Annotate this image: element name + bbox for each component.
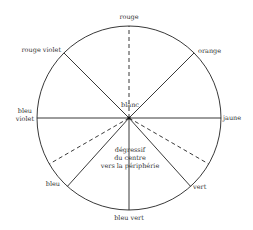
label-blanc: blanc xyxy=(121,101,139,109)
label-jaune: jaune xyxy=(222,114,241,122)
note-line-2: du centre xyxy=(114,154,146,162)
label-rouge-violet: rouge violet xyxy=(22,46,62,54)
center-point xyxy=(127,116,130,119)
label-bleu-violet-line2: violet xyxy=(15,115,35,123)
label-bleu-violet-line1: bleu xyxy=(18,107,32,115)
label-rouge: rouge xyxy=(119,13,138,21)
note-line-1: dégressif xyxy=(115,146,146,154)
label-bleu: bleu xyxy=(46,180,60,188)
label-orange: orange xyxy=(198,47,221,55)
spoke-rouge-violet xyxy=(64,53,129,118)
note-line-3: vers la périphérie xyxy=(100,162,160,170)
label-bleu-vert: bleu vert xyxy=(114,214,144,222)
color-wheel-diagram: rouge orange jaune vert bleu vert bleu b… xyxy=(0,0,253,230)
label-vert: vert xyxy=(192,183,207,191)
